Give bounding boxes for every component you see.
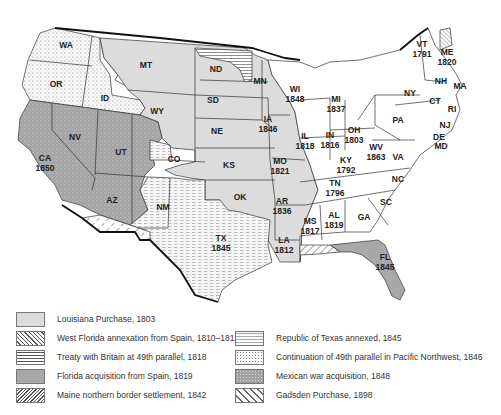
label-sd: SD	[207, 95, 219, 105]
map-legend: Louisiana Purchase, 1803 West Florida an…	[14, 311, 494, 411]
label-ct: CT	[429, 96, 441, 106]
label-wi-year: 1848	[286, 94, 305, 104]
label-ca: CA	[39, 153, 51, 163]
label-vt: VT	[417, 39, 429, 49]
label-md: MD	[434, 141, 447, 151]
label-wi: WI	[290, 84, 300, 94]
legend-item-texas: Republic of Texas annexed, 1845	[235, 330, 402, 346]
label-wv: WV	[369, 142, 383, 152]
legend-label: Mexican war acquisition, 1848	[276, 371, 390, 381]
legend-item-pacific-northwest: Continuation of 49th parallel in Pacific…	[235, 349, 482, 365]
legend-label: Republic of Texas annexed, 1845	[276, 333, 402, 343]
label-nj: NJ	[440, 120, 451, 130]
label-oh: OH	[348, 125, 361, 135]
swatch-solid-dark	[16, 369, 45, 384]
label-tx-year: 1845	[212, 243, 231, 253]
label-mi-year: 1837	[327, 104, 346, 114]
swatch-dots	[235, 350, 264, 365]
label-ms-year: 1817	[301, 226, 320, 236]
label-mo-year: 1821	[271, 166, 290, 176]
swatch-solid-light	[16, 312, 45, 327]
label-la: LA	[278, 235, 289, 245]
legend-item-west-florida: West Florida annexation from Spain, 1810…	[16, 330, 239, 346]
label-fl: FL	[380, 252, 390, 262]
label-mt: MT	[140, 60, 153, 70]
swatch-dashed-lines	[235, 331, 264, 346]
label-mo: MO	[273, 156, 287, 166]
label-ri: RI	[448, 104, 457, 114]
label-vt-year: 1791	[413, 49, 432, 59]
label-in: IN	[326, 130, 335, 140]
legend-label: Continuation of 49th parallel in Pacific…	[276, 352, 482, 362]
label-il: IL	[301, 131, 309, 141]
label-ne: NE	[211, 126, 223, 136]
legend-item-treaty-1818: Treaty with Britain at 49th parallel, 18…	[16, 349, 206, 365]
label-al: AL	[328, 210, 339, 220]
label-nc: NC	[392, 174, 404, 184]
label-ut: UT	[115, 147, 127, 157]
us-territorial-map: WA OR ID MT WY ND SD NE KS OK CO NM NV U…	[0, 0, 501, 310]
legend-label: West Florida annexation from Spain, 1810…	[57, 333, 239, 343]
label-in-year: 1816	[321, 140, 340, 150]
label-sc: SC	[380, 197, 392, 207]
label-mn: MN	[253, 76, 266, 86]
label-wy: WY	[150, 106, 164, 116]
label-la-year: 1812	[275, 245, 294, 255]
label-ky: KY	[340, 155, 352, 165]
label-ny: NY	[404, 88, 416, 98]
label-co: CO	[168, 154, 181, 164]
label-pa: PA	[392, 115, 403, 125]
label-mi: MI	[331, 94, 340, 104]
label-ms: MS	[304, 216, 317, 226]
label-ar: AR	[276, 196, 288, 206]
label-ky-year: 1792	[337, 165, 356, 175]
swatch-diagonal-hatch	[16, 331, 45, 346]
legend-label: Gadsden Purchase, 1898	[276, 390, 372, 400]
label-ks: KS	[223, 160, 235, 170]
label-nm: NM	[156, 202, 169, 212]
label-ok: OK	[234, 192, 248, 202]
swatch-dense-diagonal	[16, 388, 45, 403]
legend-label: Maine northern border settlement, 1842	[57, 390, 206, 400]
label-oh-year: 1803	[345, 135, 364, 145]
label-tx: TX	[216, 233, 227, 243]
label-al-year: 1819	[325, 220, 344, 230]
label-il-year: 1818	[296, 141, 315, 151]
swatch-sparse-diagonal	[235, 388, 264, 403]
label-me-year: 1820	[438, 57, 457, 67]
label-tn-year: 1796	[326, 188, 345, 198]
label-fl-year: 1845	[376, 262, 395, 272]
legend-item-gadsden: Gadsden Purchase, 1898	[235, 387, 372, 403]
swatch-dark-dots	[235, 369, 264, 384]
legend-item-florida: Florida acquisition from Spain, 1819	[16, 368, 193, 384]
legend-item-maine: Maine northern border settlement, 1842	[16, 387, 206, 403]
legend-label: Treaty with Britain at 49th parallel, 18…	[57, 352, 206, 362]
label-ma: MA	[453, 81, 466, 91]
legend-item-louisiana: Louisiana Purchase, 1803	[16, 311, 155, 327]
label-az: AZ	[106, 195, 117, 205]
label-nv: NV	[69, 132, 81, 142]
label-id: ID	[101, 93, 110, 103]
label-ca-year: 1850	[36, 163, 55, 173]
label-or: OR	[50, 79, 63, 89]
label-ia: IA	[264, 114, 273, 124]
label-ga: GA	[358, 212, 371, 222]
label-ar-year: 1836	[273, 206, 292, 216]
legend-item-mexican-war: Mexican war acquisition, 1848	[235, 368, 390, 384]
legend-label: Florida acquisition from Spain, 1819	[57, 371, 193, 381]
legend-label: Louisiana Purchase, 1803	[57, 314, 155, 324]
label-me: ME	[441, 47, 454, 57]
label-wa: WA	[59, 40, 73, 50]
label-ia-year: 1846	[259, 124, 278, 134]
label-va: VA	[392, 152, 403, 162]
label-tn: TN	[329, 178, 340, 188]
label-nh: NH	[435, 76, 447, 86]
swatch-horizontal-lines	[16, 350, 45, 365]
label-wv-year: 1863	[367, 152, 386, 162]
label-nd: ND	[210, 64, 222, 74]
